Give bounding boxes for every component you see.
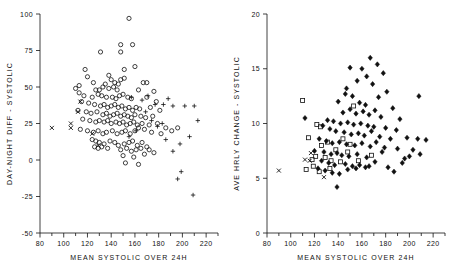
svg-text:MEAN SYSTOLIC OVER 24H: MEAN SYSTOLIC OVER 24H <box>297 254 414 261</box>
svg-text:AVE HRLY CHANGE - SYSTOLIC: AVE HRLY CHANGE - SYSTOLIC <box>233 56 240 191</box>
left-points-group <box>50 16 200 197</box>
chart-panel-left: -50-25025507510080100120140160180200220M… <box>0 0 226 271</box>
svg-text:200: 200 <box>176 240 189 247</box>
svg-text:0: 0 <box>256 230 260 237</box>
svg-text:200: 200 <box>403 240 416 247</box>
svg-text:180: 180 <box>379 240 392 247</box>
svg-text:140: 140 <box>105 240 118 247</box>
figure-container: -50-25025507510080100120140160180200220M… <box>0 0 453 271</box>
svg-text:120: 120 <box>81 240 94 247</box>
chart-panel-right: 0510152080100120140160180200220MEAN SYST… <box>227 0 453 271</box>
svg-text:120: 120 <box>308 240 321 247</box>
svg-text:-50: -50 <box>22 230 33 237</box>
svg-text:180: 180 <box>152 240 165 247</box>
svg-text:80: 80 <box>36 240 45 247</box>
right-points-group <box>277 55 428 189</box>
svg-text:100: 100 <box>57 240 70 247</box>
svg-text:75: 75 <box>24 47 33 54</box>
svg-text:50: 50 <box>24 84 33 91</box>
svg-text:220: 220 <box>200 240 213 247</box>
svg-text:140: 140 <box>332 240 345 247</box>
svg-text:10: 10 <box>251 120 260 127</box>
svg-text:160: 160 <box>128 240 141 247</box>
svg-text:220: 220 <box>427 240 440 247</box>
svg-text:MEAN SYSTOLIC OVER 24H: MEAN SYSTOLIC OVER 24H <box>70 254 187 261</box>
svg-text:-25: -25 <box>22 193 33 200</box>
svg-text:20: 20 <box>251 11 260 18</box>
right-labels-group: 0510152080100120140160180200220MEAN SYST… <box>233 11 440 261</box>
scatter-plot-left: -50-25025507510080100120140160180200220M… <box>0 0 226 271</box>
scatter-plot-right: 0510152080100120140160180200220MEAN SYST… <box>227 0 453 271</box>
svg-text:5: 5 <box>256 175 260 182</box>
svg-text:100: 100 <box>284 240 297 247</box>
svg-text:80: 80 <box>263 240 272 247</box>
svg-text:25: 25 <box>24 120 33 127</box>
svg-text:15: 15 <box>251 65 260 72</box>
svg-text:DAY-NIGHT DIFF - SYSTOLIC: DAY-NIGHT DIFF - SYSTOLIC <box>6 62 13 185</box>
svg-text:0: 0 <box>29 157 33 164</box>
left-axes-group <box>36 14 218 238</box>
left-labels-group: -50-25025507510080100120140160180200220M… <box>6 11 213 261</box>
svg-text:160: 160 <box>355 240 368 247</box>
svg-text:100: 100 <box>20 11 33 18</box>
